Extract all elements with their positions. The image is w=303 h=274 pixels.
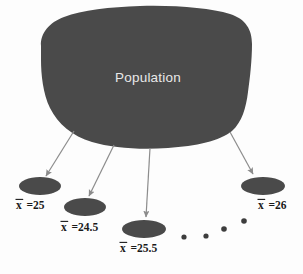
- sample-3-xbar-glyph: x: [120, 242, 126, 254]
- diagram-canvas: Population x=25x=24.5x=25.5x=26: [0, 0, 303, 274]
- sample-2-xbar-glyph: x: [61, 221, 67, 233]
- sample-2-ellipse: [64, 198, 106, 216]
- ellipsis-dot-1: [181, 234, 186, 239]
- sample-4-ellipse: [241, 177, 285, 195]
- sampling-diagram: Population x=25x=24.5x=25.5x=26: [0, 0, 303, 274]
- sample-3-ellipse: [122, 220, 166, 238]
- ellipsis-dot-3: [221, 226, 227, 232]
- sample-4-value: =26: [269, 199, 287, 211]
- ellipsis-dot-2: [203, 233, 208, 238]
- ellipsis-dot-4: [241, 218, 247, 224]
- sample-3-label: x=25.5: [120, 242, 158, 254]
- population-label: Population: [115, 70, 181, 85]
- sample-1-label: x=25: [16, 199, 45, 211]
- sample-2-label: x=24.5: [61, 221, 99, 233]
- sample-3-value: =25.5: [131, 242, 158, 254]
- sample-4-xbar-glyph: x: [258, 199, 264, 211]
- sample-1-xbar-glyph: x: [16, 199, 22, 211]
- sample-2-value: =24.5: [72, 221, 99, 233]
- sample-1-value: =25: [27, 199, 45, 211]
- sample-1-ellipse: [19, 177, 61, 195]
- sample-4-label: x=26: [258, 199, 287, 211]
